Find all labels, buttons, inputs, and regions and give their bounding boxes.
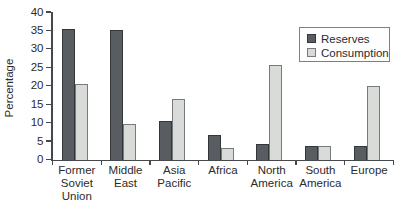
y-tick-mark — [46, 85, 52, 86]
y-tick-label: 25 — [13, 61, 44, 74]
x-category-label-line: Union — [42, 190, 112, 203]
y-tick-mark — [46, 48, 52, 49]
x-category-label-line: America — [285, 177, 355, 190]
y-tick-mark — [46, 122, 52, 123]
bar-reserves-north-america — [256, 144, 269, 159]
y-tick-label: 30 — [13, 42, 44, 55]
y-tick-label: 5 — [13, 135, 44, 148]
bar-reserves-former-soviet-union — [62, 29, 75, 160]
bar-reserves-europe — [354, 146, 367, 160]
x-axis-line — [51, 160, 394, 162]
legend-swatch-icon — [307, 48, 316, 57]
y-tick-mark — [46, 159, 52, 160]
y-tick-mark — [46, 30, 52, 31]
legend-swatch-icon — [307, 34, 316, 43]
y-tick-label: 15 — [13, 98, 44, 111]
x-category-label-line: Pacific — [139, 177, 209, 190]
y-tick-mark — [46, 104, 52, 105]
bar-consumption-europe — [367, 86, 380, 160]
y-axis-line — [51, 12, 53, 161]
bar-reserves-asia-pacific — [159, 121, 172, 160]
bar-consumption-middle-east — [123, 124, 136, 159]
legend-label: Reserves — [321, 33, 370, 45]
bar-consumption-africa — [221, 148, 234, 159]
legend-item-reserves: Reserves — [307, 32, 389, 45]
x-category-labels: FormerSovietUnionMiddleEastAsiaPacificAf… — [53, 164, 394, 209]
y-tick-label: 10 — [13, 116, 44, 129]
legend-label: Consumption — [321, 47, 389, 59]
y-tick-label: 0 — [13, 153, 44, 166]
legend: ReservesConsumption — [299, 27, 390, 62]
bar-reserves-africa — [208, 135, 221, 160]
legend-item-consumption: Consumption — [307, 46, 389, 59]
y-tick-mark — [46, 140, 52, 141]
bar-chart: Percentage 0510152025303540 FormerSoviet… — [0, 0, 404, 209]
bar-consumption-north-america — [269, 65, 282, 159]
y-tick-label: 35 — [13, 24, 44, 37]
bar-reserves-south-america — [305, 146, 318, 160]
bar-consumption-south-america — [318, 146, 331, 160]
x-category-label-line: Europe — [334, 164, 404, 177]
bar-consumption-former-soviet-union — [75, 84, 88, 160]
bar-consumption-asia-pacific — [172, 99, 185, 160]
y-tick-mark — [46, 67, 52, 68]
y-tick-mark — [46, 11, 52, 12]
bar-reserves-middle-east — [110, 30, 123, 159]
y-tick-label: 20 — [13, 79, 44, 92]
y-tick-label: 40 — [13, 6, 44, 19]
x-category-label: Europe — [334, 164, 404, 177]
